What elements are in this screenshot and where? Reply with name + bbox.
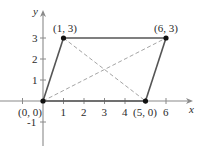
point-label-5-0: (5, 0) — [133, 106, 157, 119]
y-tick-label-3: 3 — [32, 32, 38, 44]
y-tick-label-1: 1 — [32, 74, 38, 86]
point-label-0-0: (0, 0) — [18, 106, 42, 119]
x-tick-label-6: 6 — [163, 106, 169, 118]
point-5-0 — [143, 98, 148, 103]
x-tick-label-3: 3 — [102, 106, 108, 118]
point-0-0 — [40, 98, 45, 103]
x-tick-label-1: 1 — [61, 106, 67, 118]
point-label-6-3: (6, 3) — [154, 22, 178, 35]
point-label-1-3: (1, 3) — [53, 22, 77, 35]
coordinate-diagram: x y 1 2 3 4 6 1 2 3 -1 (0, 0) (1, 3) (6,… — [0, 0, 205, 152]
point-1-3 — [61, 35, 66, 40]
y-axis-label: y — [32, 5, 38, 17]
y-tick-label-2: 2 — [32, 53, 38, 65]
point-6-3 — [163, 35, 168, 40]
diagonal-00-63 — [43, 38, 166, 101]
x-tick-label-4: 4 — [122, 106, 128, 118]
x-axis-label: x — [188, 103, 194, 115]
x-tick-label-2: 2 — [81, 106, 87, 118]
diagonal-13-50 — [64, 38, 146, 101]
